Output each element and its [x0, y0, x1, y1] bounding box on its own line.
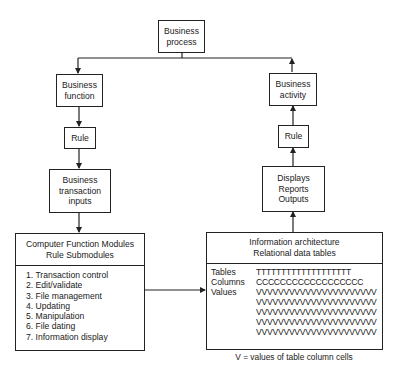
node-label: function: [64, 91, 94, 102]
module-item: 1. Transaction control: [26, 270, 144, 280]
computer-function-modules-node: Computer Function Modules Rule Submodule…: [15, 233, 145, 351]
modules-list: 1. Transaction control 2. Edit/validate …: [16, 266, 144, 342]
relational-table-rows: Tables TTTTTTTTTTTTTTTTTTT Columns CCCCC…: [207, 264, 382, 268]
node-label: Rule: [71, 133, 89, 144]
row-values: VVVVVVVVVVVVVVVVVVVVVV: [256, 328, 377, 338]
node-label: Business: [276, 79, 311, 90]
module-item: 6. File dating: [26, 321, 144, 331]
node-label: Business: [164, 26, 199, 37]
node-label: transaction: [59, 186, 101, 197]
information-architecture-node: Information architecture Relational data…: [206, 232, 383, 350]
node-label: process: [166, 37, 196, 48]
node-label: Business: [62, 80, 97, 91]
info-arch-title: Information architecture: [207, 237, 382, 248]
modules-title: Computer Function Modules: [16, 239, 144, 250]
node-label: activity: [280, 90, 306, 101]
modules-header: Computer Function Modules Rule Submodule…: [16, 234, 144, 266]
info-arch-subtitle: Relational data tables: [207, 248, 382, 259]
module-item: 3. File management: [26, 291, 144, 301]
values-caption: V = values of table column cells: [206, 352, 382, 362]
node-label: Outputs: [278, 194, 308, 205]
business-transaction-inputs-node: Business transaction inputs: [49, 169, 111, 213]
node-label: Business: [63, 175, 98, 186]
node-label: Displays: [277, 173, 309, 184]
modules-subtitle: Rule Submodules: [16, 250, 144, 261]
rule-node-right: Rule: [278, 125, 309, 148]
row-label-values: Values: [211, 288, 237, 298]
info-arch-header: Information architecture Relational data…: [207, 233, 382, 264]
module-item: 4. Updating: [26, 301, 144, 311]
module-item: 2. Edit/validate: [26, 280, 144, 290]
business-function-node: Business function: [56, 74, 103, 107]
node-label: Rule: [285, 131, 303, 142]
displays-reports-outputs-node: Displays Reports Outputs: [262, 166, 325, 212]
module-item: 7. Information display: [26, 332, 144, 342]
business-process-node: Business process: [158, 20, 205, 53]
module-item: 5. Manipulation: [26, 311, 144, 321]
rule-node-left: Rule: [64, 127, 96, 149]
node-label: Reports: [278, 184, 308, 195]
node-label: inputs: [69, 196, 92, 207]
business-activity-node: Business activity: [269, 73, 317, 106]
